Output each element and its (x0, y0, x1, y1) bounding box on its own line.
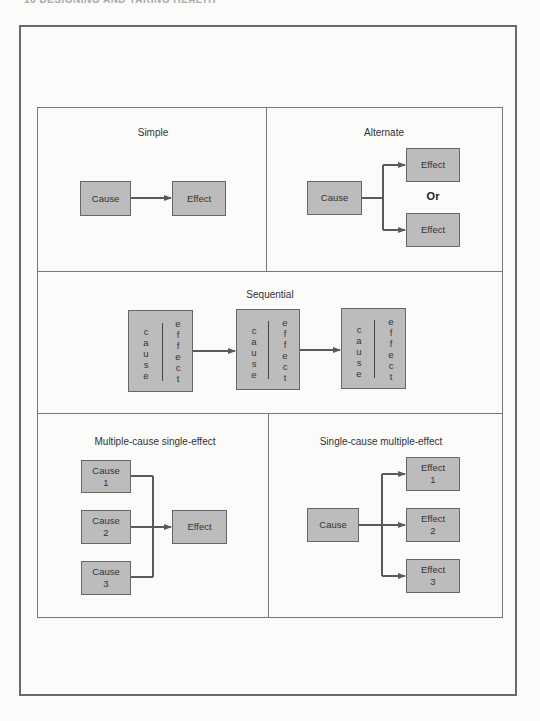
cause-box-3: Cause 3 (81, 561, 131, 595)
effect-label: e f f e c t (280, 317, 290, 383)
cause-effect-divider (268, 321, 269, 379)
cause-label: c a u s e (354, 324, 364, 379)
effect-box: Effect (172, 510, 227, 544)
cause-box: Cause (307, 181, 362, 215)
panel-title-multiple-cause: Multiple-cause single-effect (95, 436, 216, 447)
effect-box-bottom: Effect (406, 213, 460, 247)
cause-box-2: Cause 2 (81, 510, 131, 544)
effect-label: e f f e c t (386, 316, 396, 382)
effect-box-top: Effect (406, 148, 460, 182)
panel-title-alternate: Alternate (364, 127, 404, 138)
cause-effect-divider (374, 320, 375, 378)
panel-title-sequential: Sequential (246, 289, 293, 300)
panel-title-single-cause: Single-cause multiple-effect (320, 436, 443, 447)
panel-title-simple: Simple (138, 127, 169, 138)
sequential-box-2: c a u s e e f f e c t (236, 309, 300, 390)
cause-box: Cause (307, 508, 359, 542)
effect-label: e f f e c t (173, 318, 183, 384)
or-label: Or (427, 190, 440, 202)
sequential-box-1: c a u s e e f f e c t (128, 310, 193, 392)
effect-box-3: Effect 3 (406, 559, 460, 593)
cause-effect-divider (162, 323, 163, 381)
effect-box-1: Effect 1 (406, 457, 460, 491)
sequential-box-3: c a u s e e f f e c t (341, 308, 406, 389)
cause-label: c a u s e (249, 325, 259, 380)
cause-box: Cause (80, 181, 131, 216)
effect-box-2: Effect 2 (406, 508, 460, 542)
effect-box: Effect (172, 181, 226, 216)
cause-box-1: Cause 1 (81, 460, 131, 493)
cause-label: c a u s e (141, 326, 151, 381)
